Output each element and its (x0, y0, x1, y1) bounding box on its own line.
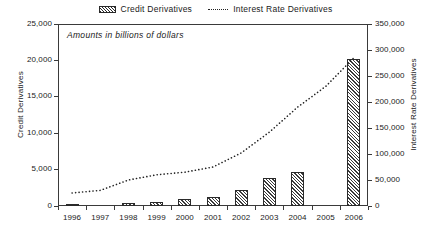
x-tick-label-2004: 2004 (288, 213, 306, 222)
derivatives-chart: Credit Derivatives Interest Rate Derivat… (0, 0, 431, 237)
left-tick-label: 25,000 (0, 20, 52, 28)
left-tick-mark (54, 96, 58, 97)
bar-1998 (122, 203, 135, 206)
left-tick-label: 0 (0, 202, 52, 210)
x-tick-mark (255, 206, 256, 210)
right-tick-label: 150,000 (375, 124, 431, 132)
right-tick-mark (368, 76, 372, 77)
dotted-line-swatch-icon (208, 6, 228, 13)
bar-2003 (263, 178, 276, 206)
right-tick-label: 300,000 (375, 46, 431, 54)
x-tick-label-1996: 1996 (63, 213, 81, 222)
legend-label-interest-rate-derivatives: Interest Rate Derivatives (233, 4, 332, 14)
hatched-bar-swatch-icon (99, 6, 116, 13)
chart-annotation: Amounts in billions of dollars (67, 30, 184, 40)
left-tick-mark (54, 169, 58, 170)
x-tick-mark (86, 206, 87, 210)
bar-1996 (66, 204, 79, 206)
x-tick-mark (368, 206, 369, 210)
right-tick-mark (368, 50, 372, 51)
x-tick-label-1999: 1999 (148, 213, 166, 222)
bar-2000 (178, 199, 191, 206)
right-tick-label: 350,000 (375, 20, 431, 28)
x-tick-label-2002: 2002 (232, 213, 250, 222)
bar-2006 (347, 59, 360, 206)
x-tick-mark (340, 206, 341, 210)
x-tick-label-1998: 1998 (119, 213, 137, 222)
x-tick-mark (114, 206, 115, 210)
x-tick-mark (283, 206, 284, 210)
bar-1999 (150, 202, 163, 206)
right-tick-mark (368, 180, 372, 181)
x-tick-label-1997: 1997 (91, 213, 109, 222)
x-tick-mark (312, 206, 313, 210)
right-tick-label: 50,000 (375, 176, 431, 184)
right-tick-mark (368, 154, 372, 155)
x-tick-mark (199, 206, 200, 210)
right-tick-mark (368, 24, 372, 25)
x-tick-mark (227, 206, 228, 210)
left-tick-label: 5,000 (0, 165, 52, 173)
left-tick-mark (54, 24, 58, 25)
x-tick-label-2001: 2001 (204, 213, 222, 222)
legend-item-interest-rate-derivatives: Interest Rate Derivatives (208, 4, 332, 14)
x-tick-mark (143, 206, 144, 210)
bar-2002 (235, 190, 248, 206)
bar-2004 (291, 172, 304, 206)
x-tick-label-2000: 2000 (176, 213, 194, 222)
x-tick-label-2003: 2003 (260, 213, 278, 222)
right-tick-mark (368, 102, 372, 103)
left-tick-mark (54, 60, 58, 61)
right-tick-label: 250,000 (375, 72, 431, 80)
right-tick-label: 200,000 (375, 98, 431, 106)
right-tick-label: 0 (375, 202, 431, 210)
legend-label-credit-derivatives: Credit Derivatives (121, 4, 193, 14)
bar-2001 (207, 197, 220, 206)
left-tick-label: 10,000 (0, 129, 52, 137)
left-tick-label: 15,000 (0, 92, 52, 100)
right-tick-mark (368, 128, 372, 129)
chart-legend: Credit Derivatives Interest Rate Derivat… (0, 2, 431, 16)
legend-item-credit-derivatives: Credit Derivatives (99, 4, 193, 14)
left-tick-label: 20,000 (0, 56, 52, 64)
right-tick-label: 100,000 (375, 150, 431, 158)
x-tick-label-2006: 2006 (345, 213, 363, 222)
plot-area (58, 24, 368, 206)
x-tick-mark (171, 206, 172, 210)
left-tick-mark (54, 133, 58, 134)
x-tick-label-2005: 2005 (317, 213, 335, 222)
x-tick-mark (58, 206, 59, 210)
